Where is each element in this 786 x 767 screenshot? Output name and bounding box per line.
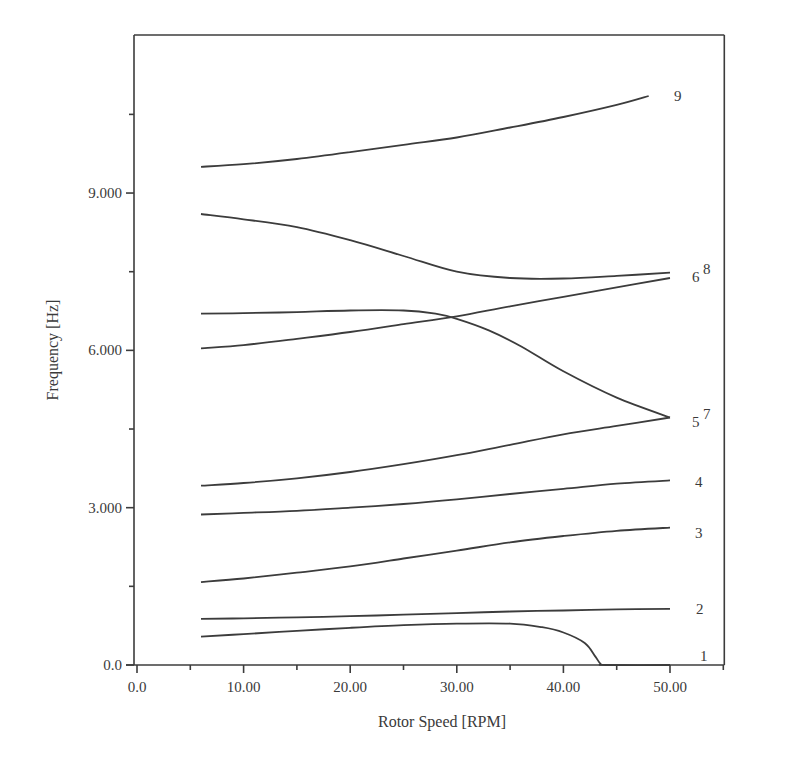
mode-curve-4	[201, 480, 670, 514]
y-axis: 0.03.0006.0009.000	[88, 114, 134, 673]
curve-label-2: 2	[696, 601, 704, 617]
curve-label-8: 8	[703, 261, 711, 277]
x-axis-title: Rotor Speed [RPM]	[378, 713, 506, 731]
y-tick-label: 6.000	[88, 342, 122, 358]
mode-curve-5	[201, 418, 670, 486]
y-tick-label: 0.0	[103, 657, 122, 673]
mode-curve-8	[201, 214, 670, 279]
y-axis-title: Frequency [Hz]	[44, 300, 62, 401]
x-tick-label: 30.00	[440, 679, 474, 695]
x-tick-label: 40.00	[547, 679, 581, 695]
mode-curve-2	[201, 609, 670, 619]
curve-label-6: 6	[692, 269, 700, 285]
x-tick-label: 50.00	[653, 679, 687, 695]
mode-curve-7	[201, 310, 670, 417]
mode-curves	[201, 96, 670, 665]
x-axis: 0.010.0020.0030.0040.0050.00	[128, 665, 724, 695]
curve-label-3: 3	[695, 525, 703, 541]
x-tick-label: 20.00	[333, 679, 367, 695]
y-tick-label: 9.000	[88, 185, 122, 201]
mode-curve-3	[201, 528, 670, 583]
curve-label-9: 9	[674, 88, 682, 104]
plot-frame	[126, 35, 724, 665]
curve-label-4: 4	[695, 474, 703, 490]
mode-curve-9	[201, 96, 649, 167]
curve-label-5: 5	[692, 414, 700, 430]
chart: 0.010.0020.0030.0040.0050.00 0.03.0006.0…	[0, 0, 786, 767]
curve-label-1: 1	[700, 648, 708, 664]
curve-labels: 123456789	[674, 88, 711, 664]
curve-label-7: 7	[703, 406, 711, 422]
mode-curve-1	[201, 623, 670, 665]
x-tick-label: 0.0	[128, 679, 147, 695]
x-tick-label: 10.00	[227, 679, 261, 695]
y-tick-label: 3.000	[88, 500, 122, 516]
